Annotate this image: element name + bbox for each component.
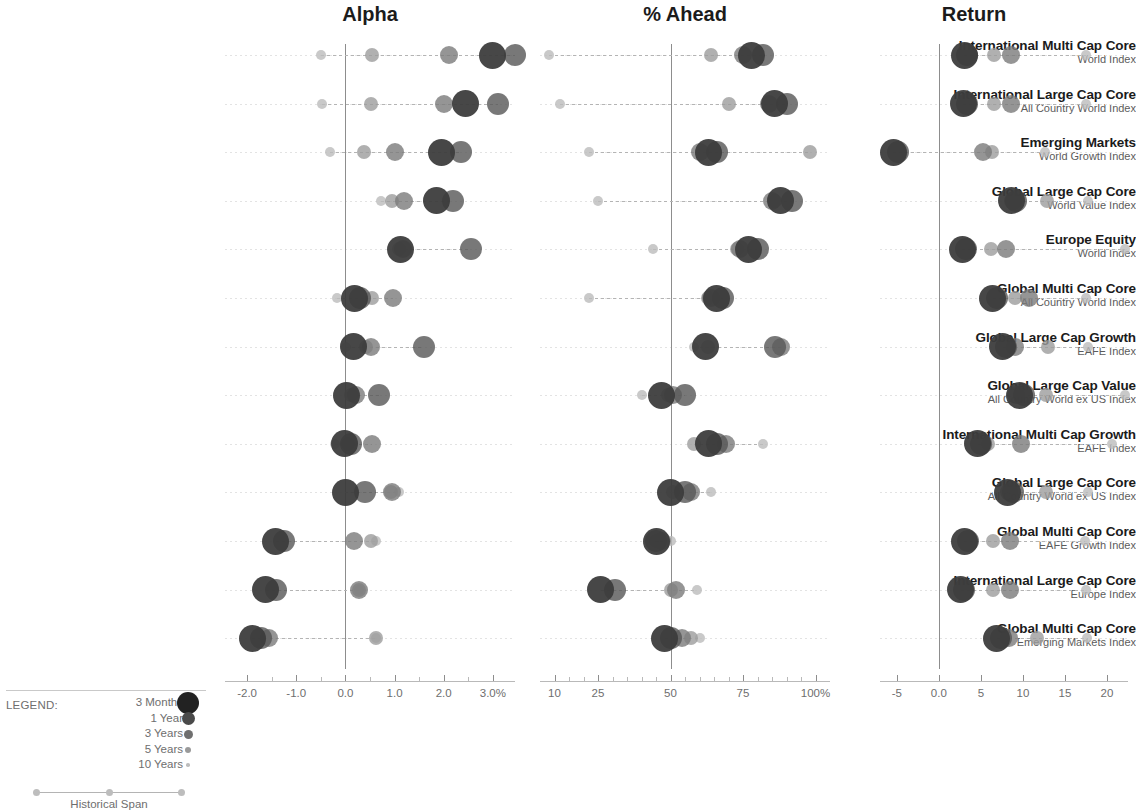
axis-minor-tick xyxy=(700,677,701,681)
legend-item-dot xyxy=(182,712,195,725)
legend-item-label: 3 Years xyxy=(145,727,183,739)
axis-minor-tick xyxy=(729,677,730,681)
axis-minor-tick xyxy=(370,677,371,681)
data-point xyxy=(386,143,404,161)
axis-tick-label: -5 xyxy=(892,687,902,699)
data-point xyxy=(368,384,390,406)
data-point xyxy=(1001,581,1019,599)
data-point xyxy=(1020,289,1038,307)
data-point xyxy=(803,145,817,159)
data-point xyxy=(987,48,1001,62)
axis-line-alpha xyxy=(225,681,515,682)
axis-minor-tick xyxy=(321,677,322,681)
panel-alpha xyxy=(225,44,515,669)
data-point xyxy=(1039,388,1053,402)
data-point xyxy=(332,479,359,506)
axis-tick-label: 100% xyxy=(801,687,830,699)
data-point xyxy=(316,50,326,60)
data-point xyxy=(695,139,722,166)
data-point xyxy=(440,46,458,64)
axis-tick-label: 15 xyxy=(1059,687,1072,699)
data-point xyxy=(428,139,455,166)
data-point xyxy=(1041,340,1055,354)
legend-item-dot xyxy=(186,763,190,767)
data-point xyxy=(1040,147,1050,157)
data-point xyxy=(667,581,685,599)
data-point xyxy=(350,581,368,599)
data-point xyxy=(1083,342,1093,352)
data-point xyxy=(997,240,1015,258)
data-point xyxy=(1081,293,1091,303)
data-point xyxy=(1081,585,1091,595)
data-point xyxy=(657,479,684,506)
historical-span-line xyxy=(961,590,1086,591)
data-point xyxy=(345,532,363,550)
axis-tick-label: 10 xyxy=(548,687,561,699)
legend-item-label: 1 Year xyxy=(150,712,183,724)
historical-span-line xyxy=(964,541,1085,542)
row-separator xyxy=(540,444,830,445)
axis-major-tick xyxy=(493,675,494,681)
row-separator xyxy=(225,201,515,202)
data-point xyxy=(695,430,722,457)
data-point xyxy=(262,528,289,555)
data-point xyxy=(395,192,413,210)
axis-minor-tick xyxy=(685,677,686,681)
data-point xyxy=(1080,536,1090,546)
legend-span-dot-left xyxy=(33,789,40,796)
axis-tick-label: 0.0 xyxy=(931,687,947,699)
legend-item-label: 5 Years xyxy=(145,743,183,755)
data-point xyxy=(1002,46,1020,64)
axis-minor-tick xyxy=(468,677,469,681)
data-point xyxy=(364,97,378,111)
data-point xyxy=(637,390,647,400)
axis-minor-tick xyxy=(656,677,657,681)
axis-minor-tick xyxy=(801,677,802,681)
axis-tick-label: 3.0% xyxy=(480,687,506,699)
legend-block: LEGEND:3 Months1 Year3 Years5 Years10 Ye… xyxy=(0,690,215,810)
data-point xyxy=(984,242,998,256)
data-point xyxy=(951,42,978,69)
data-point xyxy=(1120,390,1130,400)
axis-minor-tick xyxy=(272,677,273,681)
legend-divider xyxy=(6,690,206,691)
axis-minor-tick xyxy=(772,677,773,681)
data-point xyxy=(584,147,594,157)
legend-span-dot-right xyxy=(178,789,185,796)
chart-canvas: Alpha% AheadReturnInternational Multi Ca… xyxy=(0,0,1136,810)
axis-major-tick xyxy=(444,675,445,681)
axis-major-tick xyxy=(897,675,898,681)
data-point xyxy=(706,487,716,497)
axis-major-tick xyxy=(981,675,982,681)
data-point xyxy=(423,187,450,214)
data-point xyxy=(983,625,1010,652)
data-point xyxy=(384,289,402,307)
data-point xyxy=(735,236,762,263)
historical-span-line xyxy=(978,444,1113,445)
data-point xyxy=(387,236,414,263)
data-point xyxy=(593,196,603,206)
data-point xyxy=(648,382,675,409)
zero-reference-line xyxy=(671,44,672,669)
panel-title-return: Return xyxy=(820,3,1128,26)
axis-line-return xyxy=(880,681,1128,682)
data-point xyxy=(239,625,266,652)
axis-tick-label: -1.0 xyxy=(286,687,306,699)
legend-item-label: 10 Years xyxy=(138,758,183,770)
data-point xyxy=(363,435,381,453)
data-point xyxy=(1039,485,1053,499)
axis-tick-label: -2.0 xyxy=(237,687,257,699)
axis-major-tick xyxy=(1107,675,1108,681)
data-point xyxy=(1030,631,1044,645)
axis-major-tick xyxy=(395,675,396,681)
data-point xyxy=(949,236,976,263)
axis-major-tick xyxy=(816,675,817,681)
axis-major-tick xyxy=(555,675,556,681)
data-point xyxy=(987,97,1001,111)
axis-tick-label: 2.0 xyxy=(436,687,452,699)
data-point xyxy=(383,483,401,501)
axis-major-tick xyxy=(743,675,744,681)
axis-minor-tick xyxy=(627,677,628,681)
historical-span-line xyxy=(893,152,1044,153)
panel-title-ahead: % Ahead xyxy=(540,3,830,26)
